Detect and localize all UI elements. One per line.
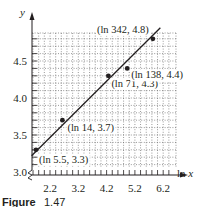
y-axis-label: y (19, 6, 25, 18)
x-tick-label: 6.2 (156, 182, 170, 194)
y-tick-label: 4.5 (13, 55, 27, 67)
chart: 2.23.24.25.26.23.03.54.04.5 (ln 5.5, 3.3… (0, 0, 197, 207)
data-point (60, 118, 65, 123)
y-tick-label: 4.0 (13, 92, 27, 104)
x-axis-label-var: x (187, 167, 193, 179)
x-tick-label: 3.2 (71, 182, 85, 194)
y-axis-arrow-icon (30, 12, 35, 20)
x-axis-label-ln: ln (177, 167, 188, 179)
data-point-label: (ln 342, 4.8) (97, 24, 149, 36)
x-axis-label: ln x (177, 167, 193, 179)
ticks: 2.23.24.25.26.23.03.54.04.5 (13, 39, 170, 194)
data-point-label: (ln 14, 3.7) (67, 122, 114, 134)
x-tick-label: 2.2 (43, 182, 57, 194)
figure-caption-prefix: Figure (2, 196, 36, 207)
fit-line (32, 28, 161, 156)
labels: (ln 5.5, 3.3)(ln 14, 3.7)(ln 71, 4.3)(ln… (38, 24, 185, 166)
grid (32, 33, 176, 167)
x-tick-label: 4.2 (100, 182, 114, 194)
y-tick-label: 3.0 (13, 166, 27, 178)
data-point (106, 73, 111, 78)
fit-line-layer (32, 28, 161, 156)
data-point-label: (ln 138, 4.4) (131, 69, 183, 81)
data-point-label: (ln 5.5, 3.3) (39, 154, 89, 166)
x-tick-label: 5.2 (128, 182, 142, 194)
y-tick-label: 3.5 (13, 129, 27, 141)
data-point (34, 147, 39, 152)
data-point (150, 36, 155, 41)
axis-break-icon (28, 170, 32, 180)
figure-caption-number: 1.47 (44, 196, 65, 207)
data-point (125, 66, 130, 71)
